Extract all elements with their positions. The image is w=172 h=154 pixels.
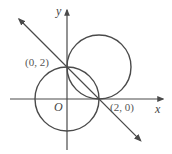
x-axis-label: x [154, 102, 161, 116]
point-label-0-2: (0, 2) [25, 56, 49, 69]
y-axis-label: y [55, 4, 62, 18]
line-x-plus-y-equals-2 [19, 19, 141, 141]
coordinate-diagram: x y O (0, 2) (2, 0) [0, 0, 172, 154]
origin-label: O [54, 100, 63, 114]
circle-centered-2-2 [67, 35, 131, 99]
point-label-2-0: (2, 0) [110, 101, 134, 114]
